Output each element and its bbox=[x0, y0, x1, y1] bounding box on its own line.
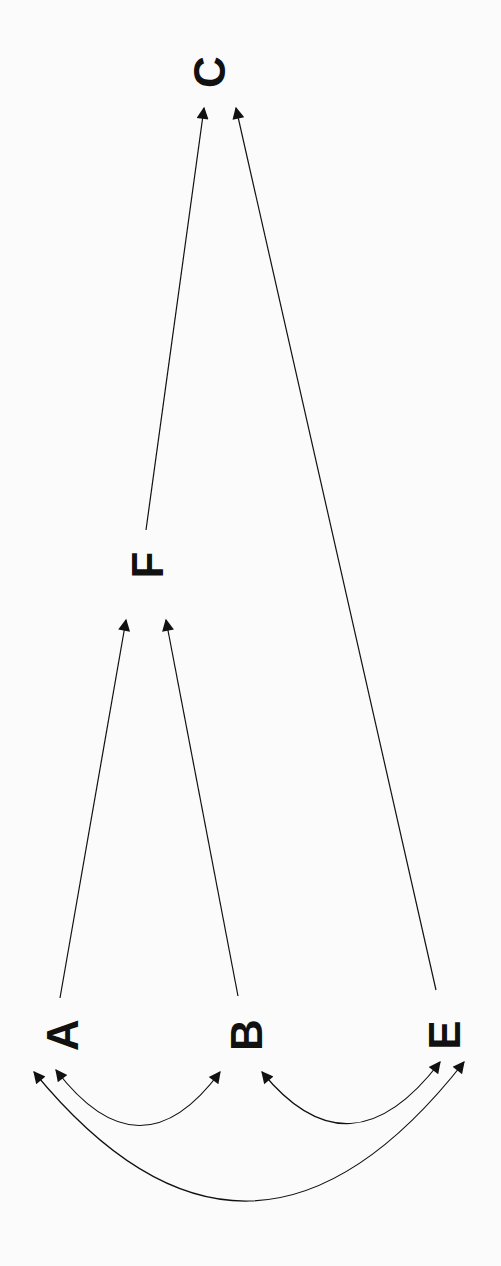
node-C: C bbox=[185, 56, 234, 88]
edge-E-C bbox=[236, 108, 436, 990]
edge-B-E bbox=[262, 1062, 440, 1124]
node-A: A bbox=[38, 1019, 87, 1051]
node-F: F bbox=[123, 552, 172, 579]
edge-F-C bbox=[146, 108, 204, 530]
node-E: E bbox=[420, 1020, 469, 1049]
edge-A-B bbox=[56, 1070, 220, 1126]
diagram-canvas: C F A B E bbox=[0, 0, 501, 1266]
edge-A-F bbox=[60, 620, 126, 998]
node-B: B bbox=[222, 1019, 271, 1051]
graph-svg: C F A B E bbox=[0, 0, 501, 1266]
edge-A-E bbox=[34, 1062, 464, 1201]
edge-B-F bbox=[166, 620, 238, 996]
